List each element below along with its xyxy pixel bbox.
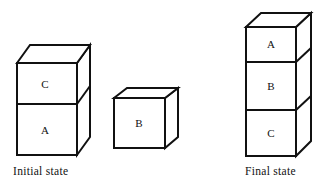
right-block-label-c: C	[267, 127, 275, 139]
left-block-label-c: C	[41, 78, 49, 90]
right-block-label-b: B	[267, 80, 275, 92]
middle-block-label-b: B	[135, 117, 143, 129]
middle-block-top-face	[114, 88, 178, 98]
left-block-label-a: A	[41, 124, 49, 136]
diagram-canvas: C A B	[0, 0, 335, 189]
blocks-world-diagram: C A B	[0, 0, 335, 189]
caption-final-state: Final state	[245, 165, 296, 177]
right-stack-group: A B C	[246, 13, 311, 156]
middle-block-group: B	[114, 88, 178, 148]
caption-initial-state: Initial state	[13, 165, 68, 177]
left-stack-group: C A	[17, 45, 90, 155]
right-stack-side-face	[296, 13, 311, 156]
right-block-label-a: A	[267, 38, 275, 50]
left-stack-top-face	[17, 45, 90, 63]
